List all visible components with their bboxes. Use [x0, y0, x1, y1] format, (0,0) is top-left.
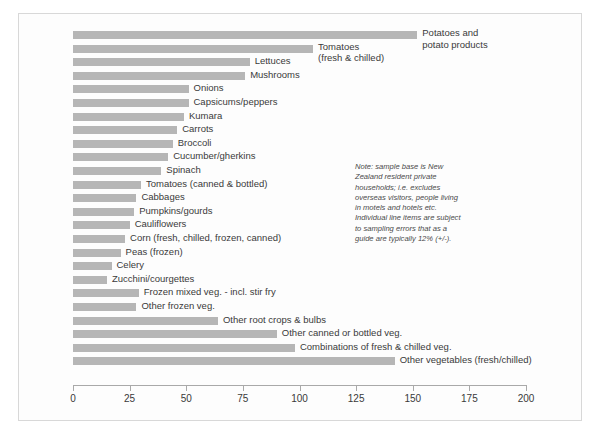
x-axis-tick [356, 385, 357, 391]
x-axis-tick-label: 125 [336, 393, 376, 404]
bar-row: Celery [19, 260, 529, 273]
bar [73, 181, 141, 189]
bar [73, 126, 177, 134]
bar [73, 113, 184, 121]
x-axis-tick [186, 385, 187, 391]
bar-row: Carrots [19, 124, 529, 137]
bar-label: Corn (fresh, chilled, frozen, canned) [130, 232, 281, 244]
bar [73, 31, 417, 39]
bar-row: Other frozen veg. [19, 301, 529, 314]
bar [73, 317, 218, 325]
bar [73, 45, 313, 53]
x-axis-tick-label: 75 [223, 393, 263, 404]
bar [73, 276, 107, 284]
bar-row: Combinations of fresh & chilled veg. [19, 342, 529, 355]
bar [73, 99, 189, 107]
bar [73, 72, 245, 80]
bar [73, 194, 136, 202]
bar-label: Other canned or bottled veg. [282, 327, 402, 339]
bar [73, 85, 189, 93]
bar-label: Cucumber/gherkins [173, 150, 255, 162]
bar-label: Other vegetables (fresh/chilled) [400, 354, 532, 366]
bar-label: Tomatoes (canned & bottled) [146, 178, 267, 190]
bar [73, 140, 173, 148]
bar [73, 249, 121, 257]
bar-row: Capsicums/peppers [19, 97, 529, 110]
x-axis-tick-label: 25 [110, 393, 150, 404]
x-axis-tick-label: 150 [393, 393, 433, 404]
bar-row: Lettuces [19, 56, 529, 69]
bar-row: Onions [19, 83, 529, 96]
x-axis-tick [413, 385, 414, 391]
bar [73, 167, 161, 175]
bar-row: Broccoli [19, 138, 529, 151]
x-axis-tick [469, 385, 470, 391]
bar [73, 221, 130, 229]
bar-row: Other root crops & bulbs [19, 315, 529, 328]
bar-label: Other frozen veg. [141, 300, 214, 312]
bar-label: Peas (frozen) [126, 246, 183, 258]
bar-label: Broccoli [178, 137, 212, 149]
bar [73, 303, 136, 311]
chart-frame: Potatoes andpotato productsTomatoes(fres… [18, 13, 582, 421]
x-axis-tick-label: 175 [449, 393, 489, 404]
bar-label: Onions [194, 82, 224, 94]
bar-row: Other vegetables (fresh/chilled) [19, 355, 529, 368]
bar [73, 235, 125, 243]
bar-label: Celery [117, 259, 144, 271]
chart-note: Note: sample base is New Zealand residen… [355, 162, 463, 244]
x-axis-tick-label: 0 [53, 393, 93, 404]
bar [73, 58, 250, 66]
bar-label: Pumpkins/gourds [139, 205, 212, 217]
bar-row: Potatoes andpotato products [19, 29, 529, 42]
bar-label: Lettuces [255, 55, 291, 67]
bar [73, 289, 139, 297]
bar-row: Tomatoes(fresh & chilled) [19, 43, 529, 56]
bar-label: Cabbages [141, 191, 184, 203]
x-axis-tick [73, 385, 74, 391]
bar-label: Cauliflowers [135, 218, 187, 230]
bar-label: Frozen mixed veg. - incl. stir fry [144, 286, 276, 298]
x-axis-tick-label: 100 [280, 393, 320, 404]
bar-label: Carrots [182, 123, 213, 135]
bar-row: Mushrooms [19, 70, 529, 83]
bar [73, 357, 395, 365]
bar-label: Mushrooms [250, 69, 300, 81]
x-axis-tick [526, 385, 527, 391]
bar-label: Kumara [189, 110, 222, 122]
bar [73, 344, 295, 352]
x-axis-tick-label: 50 [166, 393, 206, 404]
bar [73, 330, 277, 338]
bar-label: Capsicums/peppers [194, 96, 278, 108]
bar-label: Combinations of fresh & chilled veg. [300, 341, 452, 353]
bar [73, 208, 134, 216]
bar-row: Zucchini/courgettes [19, 274, 529, 287]
bar-label: Zucchini/courgettes [112, 273, 194, 285]
bar [73, 262, 112, 270]
bar-row: Peas (frozen) [19, 247, 529, 260]
bar-row: Other canned or bottled veg. [19, 328, 529, 341]
bar-chart-plot: Potatoes andpotato productsTomatoes(fres… [19, 14, 583, 422]
x-axis-tick [130, 385, 131, 391]
x-axis-tick [300, 385, 301, 391]
bar-row: Kumara [19, 111, 529, 124]
bar-row: Frozen mixed veg. - incl. stir fry [19, 287, 529, 300]
bar [73, 153, 168, 161]
x-axis-tick [243, 385, 244, 391]
bar-label: Other root crops & bulbs [223, 314, 326, 326]
bar-label: Spinach [166, 164, 200, 176]
x-axis-tick-label: 200 [506, 393, 546, 404]
